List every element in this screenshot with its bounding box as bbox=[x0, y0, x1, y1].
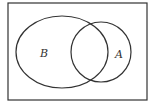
set-b-label: B bbox=[39, 47, 48, 60]
set-b-ellipse bbox=[16, 16, 108, 88]
set-a-label: A bbox=[114, 48, 123, 61]
venn-diagram: B A bbox=[0, 0, 157, 109]
